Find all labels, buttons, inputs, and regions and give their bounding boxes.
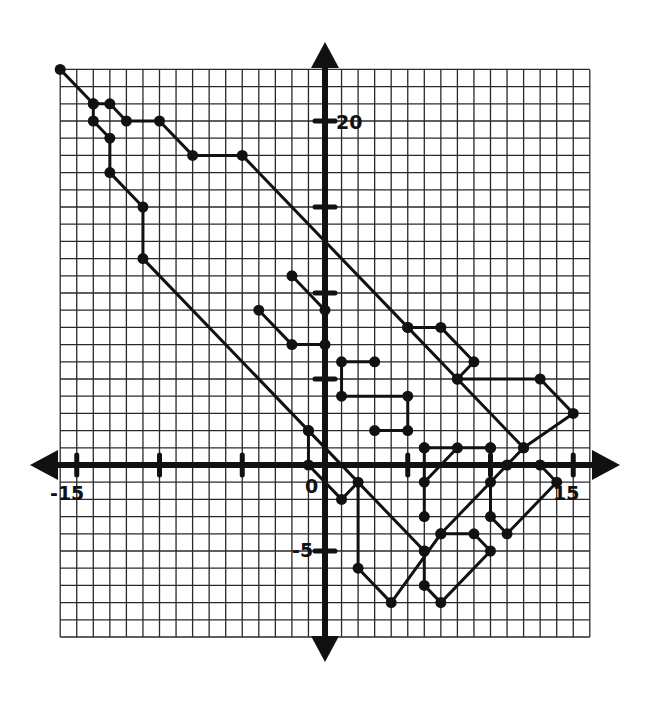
axis-labels: -15 15 0 20 -5 bbox=[50, 111, 579, 561]
x-label-15: 15 bbox=[553, 482, 579, 504]
data-point bbox=[502, 460, 513, 471]
origin-label: 0 bbox=[305, 475, 318, 497]
data-point bbox=[320, 339, 331, 350]
data-point bbox=[336, 494, 347, 505]
data-point bbox=[286, 339, 297, 350]
x-label-neg15: -15 bbox=[50, 482, 84, 504]
data-point bbox=[435, 528, 446, 539]
plotted-segments bbox=[60, 69, 573, 602]
data-point bbox=[419, 580, 430, 591]
data-point bbox=[137, 253, 148, 264]
x-axis-right-arrow-icon bbox=[592, 450, 620, 480]
data-point bbox=[485, 546, 496, 557]
data-point bbox=[320, 305, 331, 316]
data-point bbox=[303, 460, 314, 471]
data-point bbox=[154, 116, 165, 127]
data-point bbox=[452, 374, 463, 385]
y-axis-up-arrow-icon bbox=[311, 42, 339, 68]
data-point bbox=[402, 425, 413, 436]
data-point bbox=[336, 391, 347, 402]
data-point bbox=[303, 425, 314, 436]
data-point bbox=[452, 442, 463, 453]
data-point bbox=[568, 408, 579, 419]
data-point bbox=[104, 98, 115, 109]
data-point bbox=[518, 442, 529, 453]
data-point bbox=[88, 116, 99, 127]
data-point bbox=[187, 150, 198, 161]
data-point bbox=[468, 528, 479, 539]
data-point bbox=[419, 477, 430, 488]
data-point bbox=[535, 460, 546, 471]
data-point bbox=[353, 563, 364, 574]
data-point bbox=[419, 511, 430, 522]
data-point bbox=[104, 167, 115, 178]
data-point bbox=[55, 64, 66, 75]
x-axis-left-arrow-icon bbox=[30, 450, 58, 480]
y-label-20: 20 bbox=[336, 111, 362, 133]
y-axis-down-arrow-icon bbox=[311, 636, 339, 662]
data-point bbox=[121, 116, 132, 127]
data-point bbox=[104, 133, 115, 144]
data-point bbox=[88, 98, 99, 109]
data-point bbox=[435, 322, 446, 333]
data-point bbox=[253, 305, 264, 316]
data-point bbox=[386, 597, 397, 608]
data-point bbox=[137, 202, 148, 213]
data-point bbox=[369, 425, 380, 436]
y-label-neg5: -5 bbox=[292, 539, 313, 561]
data-point bbox=[502, 528, 513, 539]
coordinate-plane: -15 15 0 20 -5 bbox=[0, 0, 658, 707]
data-point bbox=[419, 442, 430, 453]
data-point bbox=[402, 322, 413, 333]
data-point bbox=[468, 356, 479, 367]
axes bbox=[30, 42, 620, 662]
data-point bbox=[485, 477, 496, 488]
data-point bbox=[419, 546, 430, 557]
data-point bbox=[237, 150, 248, 161]
data-point bbox=[286, 270, 297, 281]
data-point bbox=[353, 477, 364, 488]
data-point bbox=[336, 356, 347, 367]
data-point bbox=[485, 442, 496, 453]
data-point bbox=[485, 511, 496, 522]
data-point bbox=[402, 391, 413, 402]
data-point bbox=[535, 374, 546, 385]
data-point bbox=[435, 597, 446, 608]
data-point bbox=[369, 356, 380, 367]
